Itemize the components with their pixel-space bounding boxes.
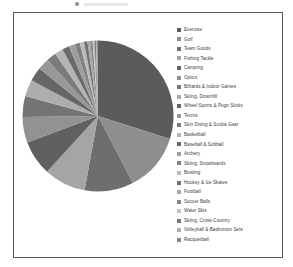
legend-item-label: Exercise [184,25,202,35]
legend-swatch-icon [177,152,181,156]
page-artifact-dot [75,2,79,6]
legend-item: Archery [176,149,280,159]
legend-item: Team Goods [176,44,280,54]
legend-swatch-icon [177,28,181,32]
legend-swatch-icon [177,47,181,51]
legend-item: Football [176,187,280,197]
pie-chart-plot-area [14,13,190,257]
legend-swatch-icon [177,181,181,185]
legend-swatch-icon [177,37,181,41]
legend-item-label: Volleyball & Badminton Sets [184,225,243,235]
legend-item: Wheel Sports & Pogo Sticks [176,101,280,111]
legend-swatch-icon [177,209,181,213]
chart-legend: ExerciseGolfTeam GoodsFishing TackleCamp… [176,25,280,245]
legend-swatch-icon [177,56,181,60]
legend-swatch-icon [177,142,181,146]
legend-item-label: Camping [184,63,203,73]
legend-item: Volleyball & Badminton Sets [176,225,280,235]
legend-swatch-icon [177,95,181,99]
legend-item: Racquetball [176,235,280,245]
legend-item-label: Wheel Sports & Pogo Sticks [184,101,243,111]
legend-swatch-icon [177,85,181,89]
legend-swatch-icon [177,200,181,204]
legend-item: Hockey & Ice Skates [176,178,280,188]
legend-item-label: Soccer Balls [184,197,210,207]
legend-item-label: Basketball [184,130,206,140]
legend-swatch-icon [177,190,181,194]
legend-item: Skin Diving & Scuba Gear [176,120,280,130]
legend-item-label: Racquetball [184,235,209,245]
legend-item-label: Skiing, Snowboards [184,159,226,169]
legend-item-label: Skiing, Cross-Country [184,216,230,226]
legend-item-label: Water Skis [184,206,207,216]
chart-frame: ExerciseGolfTeam GoodsFishing TackleCamp… [13,12,283,258]
legend-swatch-icon [177,104,181,108]
legend-item: Tennis [176,111,280,121]
legend-item-label: Baseball & Softball [184,140,224,150]
legend-swatch-icon [177,123,181,127]
legend-swatch-icon [177,114,181,118]
legend-item: Basketball [176,130,280,140]
legend-item-label: Skin Diving & Scuba Gear [184,120,238,130]
legend-item: Skiing, Cross-Country [176,216,280,226]
legend-swatch-icon [177,238,181,242]
pie-chart [22,40,174,192]
legend-item-label: Skiing, Downhill [184,92,217,102]
legend-item-label: Billiards & Indoor Games [184,82,236,92]
legend-swatch-icon [177,133,181,137]
legend-item-label: Golf [184,35,193,45]
legend-swatch-icon [177,66,181,70]
legend-item-label: Football [184,187,201,197]
legend-item: Exercise [176,25,280,35]
legend-item: Baseball & Softball [176,140,280,150]
legend-swatch-icon [177,228,181,232]
legend-item: Optics [176,73,280,83]
page-artifact-smudge [84,3,128,6]
legend-item-label: Tennis [184,111,198,121]
legend-swatch-icon [177,76,181,80]
pie-chart-svg [22,40,174,192]
legend-item-label: Fishing Tackle [184,54,214,64]
legend-item-label: Team Goods [184,44,211,54]
legend-item: Soccer Balls [176,197,280,207]
legend-item: Camping [176,63,280,73]
legend-item: Billiards & Indoor Games [176,82,280,92]
legend-swatch-icon [177,161,181,165]
legend-item: Bowling [176,168,280,178]
legend-item-label: Optics [184,73,197,83]
legend-item: Water Skis [176,206,280,216]
legend-item-label: Bowling [184,168,200,178]
legend-item: Golf [176,35,280,45]
legend-item-label: Hockey & Ice Skates [184,178,227,188]
legend-item: Skiing, Snowboards [176,159,280,169]
legend-item: Skiing, Downhill [176,92,280,102]
legend-swatch-icon [177,219,181,223]
legend-item: Fishing Tackle [176,54,280,64]
pie-slice-group [22,41,173,192]
legend-item-label: Archery [184,149,200,159]
legend-swatch-icon [177,171,181,175]
